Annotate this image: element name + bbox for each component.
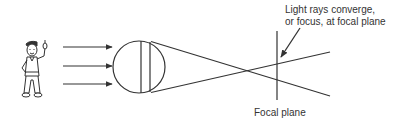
callout-arrow [281, 28, 300, 57]
converging-rays [151, 42, 330, 97]
lens-icon [113, 41, 165, 93]
person-icon [22, 40, 47, 97]
callout-line-2: or focus, at focal plane [285, 16, 386, 28]
incoming-rays [63, 47, 112, 84]
focal-plane-label: Focal plane [254, 107, 306, 119]
callout-line-1: Light rays converge, [285, 4, 386, 16]
callout-label: Light rays converge, or focus, at focal … [285, 4, 386, 28]
